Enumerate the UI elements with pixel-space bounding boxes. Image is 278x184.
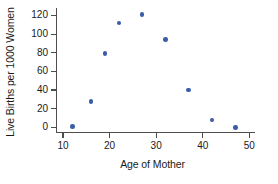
data-point <box>103 51 108 56</box>
y-tick-mark <box>51 34 56 35</box>
scatter-chart: Live Births per 1000 Women 0204060801001… <box>0 0 278 184</box>
x-tick-mark <box>249 133 250 138</box>
y-tick-label-wrap: 20 <box>26 104 48 114</box>
x-tick-mark <box>109 133 110 138</box>
x-tick-label: 40 <box>191 140 215 152</box>
y-tick-mark <box>51 15 56 16</box>
data-point <box>163 37 168 42</box>
y-tick-label: 0 <box>26 122 48 132</box>
y-tick-label: 100 <box>26 29 48 39</box>
y-tick-mark <box>51 52 56 53</box>
data-point <box>89 99 94 104</box>
y-tick-label-wrap: 60 <box>26 66 48 76</box>
y-axis-line <box>56 8 57 133</box>
y-tick-label: 40 <box>26 85 48 95</box>
y-tick-label-wrap: 120 <box>26 10 48 20</box>
y-tick-mark <box>51 89 56 90</box>
y-tick-mark <box>51 127 56 128</box>
x-tick-label-wrap: 40 <box>191 140 215 152</box>
x-tick-mark <box>62 133 63 138</box>
y-tick-label-wrap: 40 <box>26 85 48 95</box>
y-tick-mark <box>51 108 56 109</box>
plot-area <box>56 8 254 132</box>
x-tick-label: 10 <box>51 140 75 152</box>
data-point <box>233 125 238 130</box>
data-point <box>70 124 75 129</box>
x-tick-label: 20 <box>98 140 122 152</box>
x-tick-label-wrap: 10 <box>51 140 75 152</box>
x-tick-label-wrap: 30 <box>144 140 168 152</box>
x-tick-label-wrap: 50 <box>237 140 261 152</box>
x-tick-label-wrap: 20 <box>98 140 122 152</box>
x-axis-title: Age of Mother <box>55 158 250 170</box>
x-tick-label: 30 <box>144 140 168 152</box>
y-tick-label: 20 <box>26 104 48 114</box>
y-axis-title: Live Births per 1000 Women <box>2 4 18 140</box>
x-tick-mark <box>156 133 157 138</box>
y-tick-label: 80 <box>26 48 48 58</box>
y-tick-label-wrap: 100 <box>26 29 48 39</box>
y-tick-label-wrap: 80 <box>26 48 48 58</box>
x-tick-label: 50 <box>237 140 261 152</box>
x-tick-mark <box>202 133 203 138</box>
y-tick-label: 120 <box>26 10 48 20</box>
y-tick-mark <box>51 71 56 72</box>
y-tick-label-wrap: 0 <box>26 122 48 132</box>
y-tick-label: 60 <box>26 66 48 76</box>
